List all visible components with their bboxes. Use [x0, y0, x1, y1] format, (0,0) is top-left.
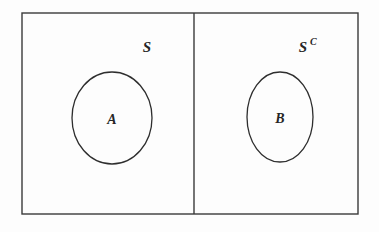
region-label-s-complement: S [299, 39, 307, 55]
venn-diagram-canvas: S S C A B [0, 0, 379, 232]
set-label-b: B [274, 111, 284, 126]
venn-diagram-figure: S S C A B [0, 0, 379, 232]
region-label-s: S [143, 39, 151, 55]
region-label-s-complement-superscript: C [310, 36, 317, 47]
set-label-a: A [106, 112, 116, 127]
